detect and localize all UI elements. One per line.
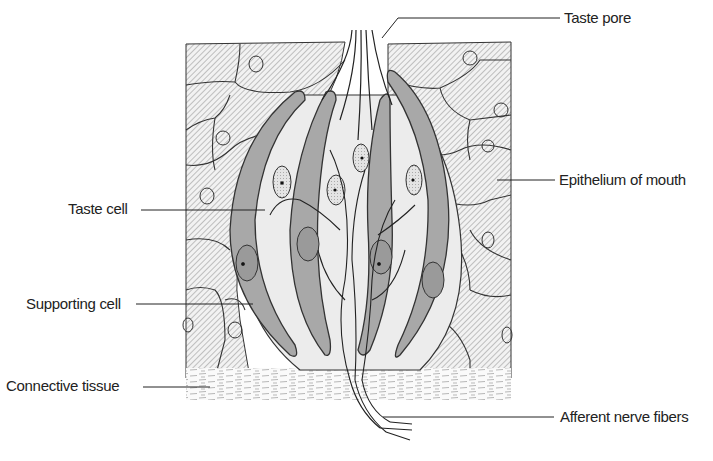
label-taste-pore: Taste pore bbox=[564, 9, 631, 26]
label-epithelium-of-mouth: Epithelium of mouth bbox=[559, 171, 686, 188]
label-taste-cell: Taste cell bbox=[68, 200, 128, 217]
label-supporting-cell: Supporting cell bbox=[26, 295, 121, 312]
label-afferent-nerve-fibers: Afferent nerve fibers bbox=[560, 408, 689, 425]
label-connective-tissue: Connective tissue bbox=[6, 377, 119, 394]
leader-taste-pore bbox=[382, 18, 560, 38]
